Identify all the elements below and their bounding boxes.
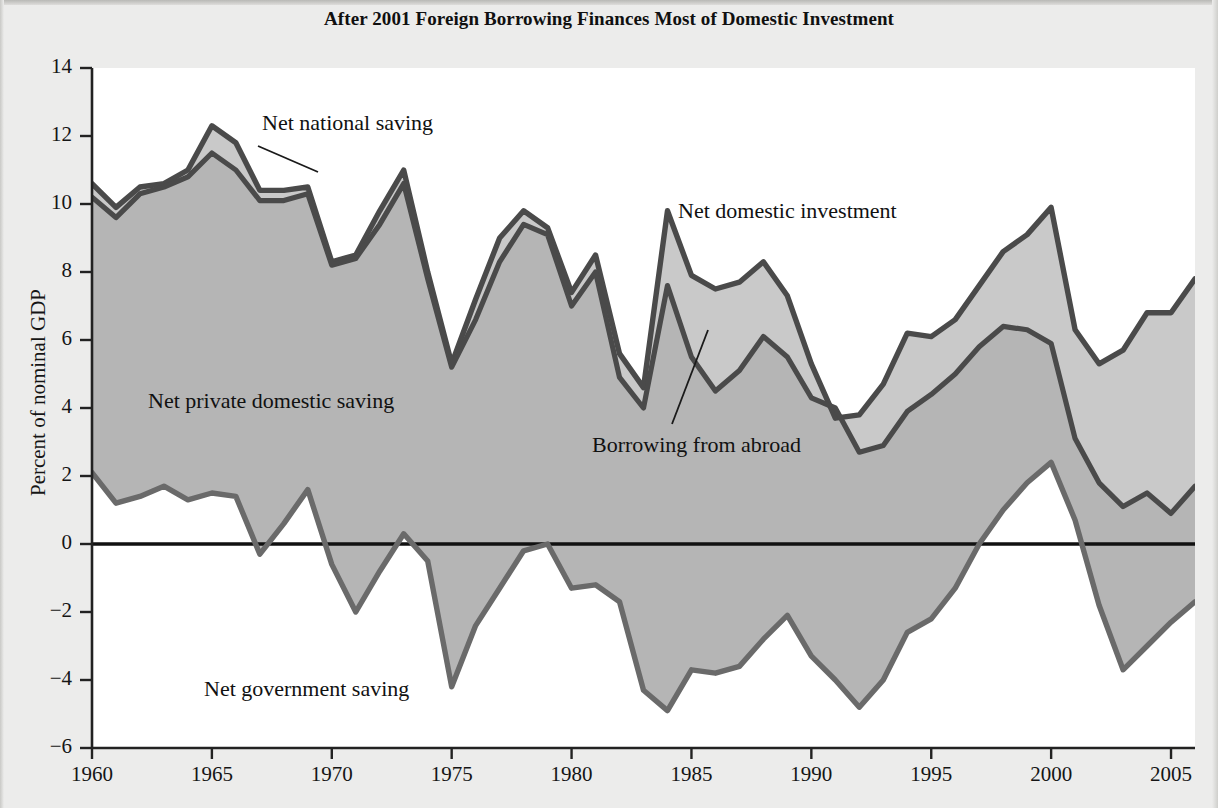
- x-tick-label: 1970: [287, 762, 377, 787]
- x-tick-label: 2005: [1126, 762, 1216, 787]
- y-tick-label: 14: [20, 54, 72, 79]
- x-tick-label: 1980: [527, 762, 617, 787]
- annotation-net-private-domestic-saving: Net private domestic saving: [148, 388, 394, 414]
- annotation-net-national-saving: Net national saving: [262, 110, 433, 136]
- x-tick-label: 1995: [886, 762, 976, 787]
- y-tick-label: 12: [20, 122, 72, 147]
- y-tick-label: −4: [20, 666, 72, 691]
- y-tick-label: −2: [20, 598, 72, 623]
- y-tick-label: 2: [20, 462, 72, 487]
- x-tick-label: 1965: [167, 762, 257, 787]
- x-tick-label: 2000: [1006, 762, 1096, 787]
- y-tick-label: 8: [20, 258, 72, 283]
- x-tick-label: 1975: [407, 762, 497, 787]
- x-tick-label: 1960: [47, 762, 137, 787]
- x-tick-label: 1990: [766, 762, 856, 787]
- annotation-net-government-saving: Net government saving: [204, 676, 409, 702]
- y-tick-label: 6: [20, 326, 72, 351]
- annotation-net-domestic-investment: Net domestic investment: [678, 198, 897, 224]
- x-tick-label: 1985: [646, 762, 736, 787]
- y-axis-tick-marks: [80, 68, 92, 748]
- y-tick-label: −6: [20, 734, 72, 759]
- annotation-borrowing-from-abroad: Borrowing from abroad: [592, 432, 801, 458]
- x-axis-tick-marks: [92, 748, 1171, 759]
- y-tick-label: 4: [20, 394, 72, 419]
- y-tick-label: 0: [20, 530, 72, 555]
- figure-container: After 2001 Foreign Borrowing Finances Mo…: [0, 0, 1218, 808]
- y-tick-label: 10: [20, 190, 72, 215]
